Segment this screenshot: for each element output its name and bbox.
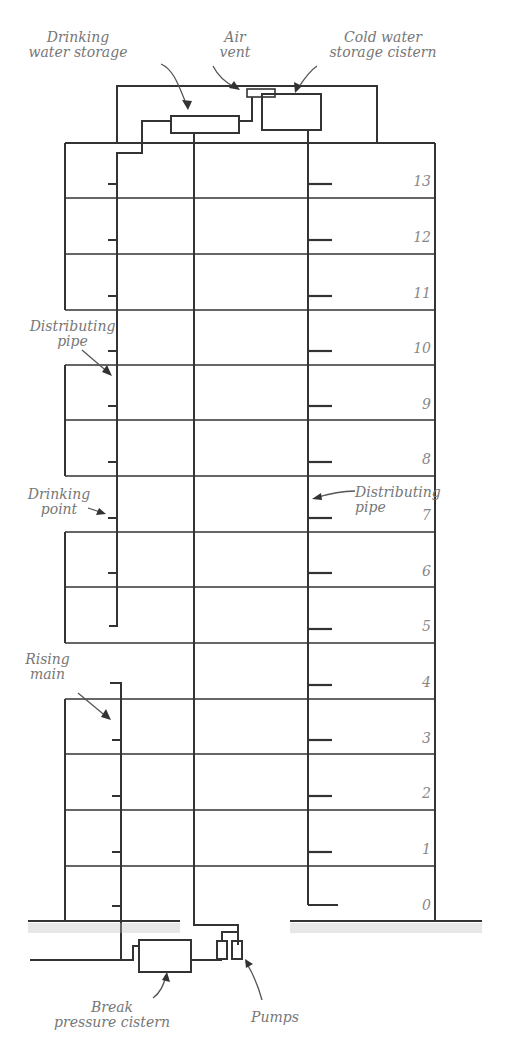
cold-water-storage-cistern — [262, 94, 321, 130]
drinking-water-storage-tank — [171, 116, 239, 133]
drinking-point-branches — [108, 184, 121, 906]
drinking-distributing-pipe — [109, 121, 171, 626]
label-line: Break — [42, 1000, 182, 1015]
label-cold-water-storage-cistern: Cold water storage cistern — [318, 30, 448, 60]
label-line: Drinking — [20, 487, 98, 502]
floor-number-13: 13 — [401, 173, 431, 189]
floor-number-12: 12 — [401, 229, 431, 245]
floor-number-9: 9 — [401, 396, 431, 412]
cold-water-branches — [308, 184, 332, 852]
floor-number-5: 5 — [401, 618, 431, 634]
label-drinking-water-storage: Drinking water storage — [22, 30, 134, 60]
pump-1 — [217, 941, 227, 959]
label-break-pressure-cistern: Break pressure cistern — [42, 1000, 182, 1030]
label-line: Cold water — [318, 30, 448, 45]
floor-number-10: 10 — [401, 340, 431, 356]
rising-main — [30, 683, 121, 960]
label-distributing-pipe-left: Distributing pipe — [20, 319, 125, 349]
floor-number-2: 2 — [401, 785, 431, 801]
floor-number-7: 7 — [401, 507, 431, 523]
floor-number-4: 4 — [401, 674, 431, 690]
label-line: Distributing — [20, 319, 125, 334]
label-line: point — [20, 502, 98, 517]
floor-number-3: 3 — [401, 730, 431, 746]
floor-number-1: 1 — [401, 841, 431, 857]
break-pressure-cistern — [139, 940, 191, 972]
floor-number-0: 0 — [401, 897, 431, 913]
floor-number-8: 8 — [401, 451, 431, 467]
label-line: Rising — [20, 652, 75, 667]
label-drinking-point: Drinking point — [20, 487, 98, 517]
building-diagram — [0, 0, 507, 1054]
label-line: Distributing — [355, 485, 465, 500]
label-line: pipe — [20, 334, 125, 349]
label-line: pressure cistern — [42, 1015, 182, 1030]
floor-number-6: 6 — [401, 563, 431, 579]
label-line: Drinking — [22, 30, 134, 45]
arrow-pumps — [246, 962, 262, 1000]
label-line: storage cistern — [318, 45, 448, 60]
label-air-vent: Air vent — [215, 30, 255, 60]
label-line: Air — [215, 30, 255, 45]
label-line: vent — [215, 45, 255, 60]
label-line: water storage — [22, 45, 134, 60]
floor-number-11: 11 — [401, 285, 431, 301]
ground-hatch — [28, 923, 482, 933]
label-rising-main: Rising main — [20, 652, 75, 682]
label-line: main — [20, 667, 75, 682]
label-line: Pumps — [245, 1010, 305, 1025]
label-pumps: Pumps — [245, 1010, 305, 1025]
